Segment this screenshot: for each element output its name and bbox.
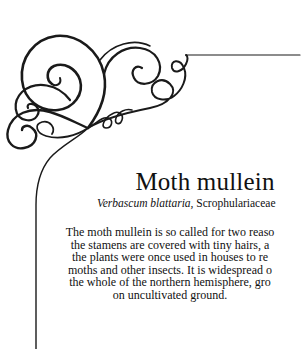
description-paragraph: The moth mullein is so called for two re… [20,226,301,302]
family-name: Scrophulariaceae [193,197,275,209]
description-line: on uncultivated ground. [20,289,301,302]
page-title: Moth mullein [90,168,301,196]
description-line: the plants were once used in houses to r… [20,251,301,264]
latin-name: Verbascum blattaria, [97,197,193,209]
species-subtitle: Verbascum blattaria, Scrophulariaceae [97,196,276,210]
description-line: The moth mullein is so called for two re… [20,226,301,239]
